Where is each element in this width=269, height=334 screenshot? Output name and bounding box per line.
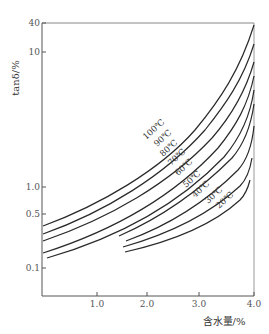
x-tick-label: 4.0 [247, 299, 262, 309]
y-tick-label: 1.0 [26, 182, 41, 192]
y-tick-label: 10 [29, 47, 41, 57]
x-ticks: 1.02.03.04.0 [90, 292, 262, 309]
y-ticks: 40101.00.50.1 [26, 18, 46, 273]
y-axis-label: tanδ/% [10, 60, 21, 95]
curve-70c [43, 76, 254, 253]
y-tick-label: 0.5 [26, 209, 41, 219]
curve-60c [47, 90, 254, 258]
x-tick-label: 2.0 [140, 299, 155, 309]
curve-20c [125, 180, 250, 252]
x-axis-label: 含水量/% [203, 315, 246, 327]
curve-30c [123, 158, 252, 247]
data-curves [43, 25, 254, 258]
y-tick-label: 0.1 [26, 263, 40, 273]
y-tick-label: 40 [29, 18, 41, 28]
x-tick-label: 3.0 [192, 299, 207, 309]
x-tick-label: 1.0 [90, 299, 105, 309]
chart-canvas: 40101.00.50.1 1.02.03.04.0 tanδ/% 含水量/% … [0, 0, 269, 334]
